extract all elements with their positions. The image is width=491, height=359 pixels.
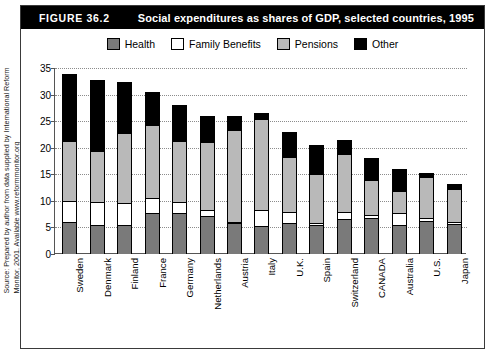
bar-australia[interactable]	[392, 169, 407, 254]
bar-segment-other	[392, 169, 407, 191]
legend-label: Other	[372, 38, 398, 50]
bar-segment-pensions	[447, 189, 462, 222]
legend-item-family-benefits[interactable]: Family Benefits	[171, 38, 261, 50]
bar-segment-other	[145, 92, 160, 125]
y-tick-label: 20	[40, 142, 51, 153]
bar-segment-health	[364, 218, 379, 254]
x-axis-label-text: Japan	[459, 258, 470, 284]
bar-segment-health	[392, 225, 407, 254]
bar-segment-health	[172, 213, 187, 254]
bar-italy[interactable]	[254, 113, 269, 254]
bar-switzerland[interactable]	[337, 140, 352, 254]
legend-swatch-icon	[107, 38, 120, 50]
y-tick-mark	[51, 121, 55, 122]
x-axis-label-text: France	[157, 258, 168, 288]
bar-spain[interactable]	[309, 145, 324, 254]
bar-segment-family-benefits	[337, 212, 352, 219]
bar-us[interactable]	[419, 173, 434, 254]
x-axis-label-text: Germany	[184, 258, 195, 297]
gridline	[55, 68, 467, 69]
bar-germany[interactable]	[172, 105, 187, 254]
legend-label: Health	[125, 38, 155, 50]
bar-segment-pensions	[145, 125, 160, 198]
x-axis-label-text: Austria	[239, 258, 250, 288]
bar-segment-other	[337, 140, 352, 154]
y-tick-label: 25	[40, 116, 51, 127]
legend-label: Pensions	[295, 38, 338, 50]
bar-segment-health	[337, 219, 352, 254]
bar-segment-health	[419, 221, 434, 254]
y-tick-label: 0	[45, 249, 51, 260]
figure-title: Social expenditures as shares of GDP, se…	[138, 12, 474, 24]
source-note: Source: Prepared by author from data sup…	[2, 62, 21, 294]
legend-item-health[interactable]: Health	[107, 38, 155, 50]
legend-swatch-icon	[354, 38, 367, 50]
bar-finland[interactable]	[117, 82, 132, 254]
bar-segment-other	[90, 80, 105, 151]
chart-legend: HealthFamily BenefitsPensionsOther	[21, 34, 484, 54]
y-tick-mark	[51, 174, 55, 175]
bar-segment-health	[309, 225, 324, 254]
bar-segment-health	[62, 222, 77, 254]
bar-segment-other	[364, 158, 379, 180]
figure-number: FIGURE 36.2	[39, 12, 110, 24]
bar-segment-other	[117, 82, 132, 132]
bar-segment-family-benefits	[254, 210, 269, 226]
y-tick-mark	[51, 254, 55, 255]
figure-box: FIGURE 36.2 Social expenditures as share…	[20, 5, 485, 349]
y-tick-mark	[51, 227, 55, 228]
x-axis-label-text: U.K.	[294, 258, 305, 277]
bar-segment-pensions	[282, 157, 297, 212]
bar-canada[interactable]	[364, 158, 379, 254]
bar-denmark[interactable]	[90, 80, 105, 254]
bar-segment-pensions	[117, 133, 132, 203]
bar-uk[interactable]	[282, 132, 297, 254]
bar-segment-pensions	[90, 151, 105, 202]
bar-segment-other	[62, 74, 77, 140]
legend-item-pensions[interactable]: Pensions	[277, 38, 338, 50]
x-axis-label-text: Denmark	[102, 258, 113, 297]
bar-segment-pensions	[200, 142, 215, 210]
y-tick-label: 10	[40, 195, 51, 206]
bar-segment-pensions	[364, 180, 379, 215]
bar-segment-pensions	[419, 177, 434, 218]
legend-item-other[interactable]: Other	[354, 38, 398, 50]
x-axis-label-text: U.S.	[431, 258, 442, 277]
y-tick-label: 5	[45, 222, 51, 233]
bar-segment-family-benefits	[145, 198, 160, 212]
bar-france[interactable]	[145, 92, 160, 254]
bar-japan[interactable]	[447, 184, 462, 254]
y-tick-mark	[51, 148, 55, 149]
bar-segment-other	[282, 132, 297, 158]
x-axis-label-text: CANADA	[376, 258, 387, 298]
plot-area: 05101520253035 SwedenDenmarkFinlandFranc…	[54, 68, 466, 254]
bar-segment-family-benefits	[392, 213, 407, 225]
bar-segment-pensions	[254, 119, 269, 210]
bar-segment-pensions	[337, 154, 352, 212]
figure-root: Source: Prepared by author from data sup…	[0, 0, 491, 359]
bar-segment-health	[447, 224, 462, 254]
bar-segment-family-benefits	[90, 202, 105, 225]
x-axis-label-text: Switzerland	[349, 258, 360, 308]
bar-segment-health	[227, 223, 242, 254]
bar-austria[interactable]	[227, 116, 242, 254]
bar-segment-other	[309, 145, 324, 174]
y-tick-label: 15	[40, 169, 51, 180]
y-tick-label: 30	[40, 89, 51, 100]
bar-segment-pensions	[172, 141, 187, 202]
x-axis-label-text: Finland	[129, 258, 140, 289]
y-tick-mark	[51, 201, 55, 202]
bar-segment-other	[200, 116, 215, 143]
bar-segment-family-benefits	[172, 202, 187, 213]
bar-segment-pensions	[227, 130, 242, 221]
bar-netherlands[interactable]	[200, 116, 215, 254]
bar-segment-health	[200, 216, 215, 254]
x-axis-label-text: Spain	[321, 258, 332, 283]
figure-title-bar: FIGURE 36.2 Social expenditures as share…	[21, 6, 484, 29]
x-axis-label-text: Australia	[404, 258, 415, 295]
bar-segment-family-benefits	[117, 203, 132, 225]
bar-segment-other	[172, 105, 187, 141]
legend-swatch-icon	[277, 38, 290, 50]
bar-sweden[interactable]	[62, 74, 77, 254]
bar-segment-health	[282, 223, 297, 254]
